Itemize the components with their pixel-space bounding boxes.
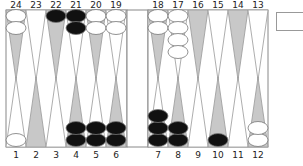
point-number-17: 17 xyxy=(168,0,188,10)
checker-black[interactable] xyxy=(148,122,168,135)
checker-white[interactable] xyxy=(248,122,268,135)
checker-white[interactable] xyxy=(6,10,26,23)
point-number-14: 14 xyxy=(228,0,248,10)
point-number-1: 1 xyxy=(6,150,26,160)
checker-white[interactable] xyxy=(168,46,188,59)
checker-black[interactable] xyxy=(148,110,168,123)
checker-white[interactable] xyxy=(168,34,188,47)
point-number-13: 13 xyxy=(248,0,268,10)
bar[interactable] xyxy=(127,10,148,147)
checker-white[interactable] xyxy=(168,10,188,23)
checker-white[interactable] xyxy=(106,10,126,23)
checker-black[interactable] xyxy=(86,122,106,135)
checker-white[interactable] xyxy=(86,22,106,35)
checker-black[interactable] xyxy=(66,134,86,147)
checker-black[interactable] xyxy=(66,10,86,23)
checker-black[interactable] xyxy=(46,10,66,23)
checker-black[interactable] xyxy=(66,122,86,135)
checker-black[interactable] xyxy=(66,22,86,35)
point-number-12: 12 xyxy=(248,150,268,160)
point-number-24: 24 xyxy=(6,0,26,10)
checker-white[interactable] xyxy=(6,134,26,147)
point-number-4: 4 xyxy=(66,150,86,160)
checker-white[interactable] xyxy=(148,10,168,23)
backgammon-board xyxy=(0,0,303,166)
point-number-2: 2 xyxy=(26,150,46,160)
checker-white[interactable] xyxy=(168,22,188,35)
point-number-6: 6 xyxy=(106,150,126,160)
point-number-11: 11 xyxy=(228,150,248,160)
point-number-16: 16 xyxy=(188,0,208,10)
checker-black[interactable] xyxy=(86,134,106,147)
point-number-5: 5 xyxy=(86,150,106,160)
point-number-18: 18 xyxy=(148,0,168,10)
point-number-8: 8 xyxy=(168,150,188,160)
point-number-10: 10 xyxy=(208,150,228,160)
checker-black[interactable] xyxy=(106,134,126,147)
point-number-7: 7 xyxy=(148,150,168,160)
point-number-22: 22 xyxy=(46,0,66,10)
point-number-21: 21 xyxy=(66,0,86,10)
checker-white[interactable] xyxy=(248,134,268,147)
point-number-20: 20 xyxy=(86,0,106,10)
checker-black[interactable] xyxy=(168,134,188,147)
checker-white[interactable] xyxy=(106,22,126,35)
point-number-19: 19 xyxy=(106,0,126,10)
side-box[interactable] xyxy=(276,12,303,31)
board-frame xyxy=(6,10,268,147)
checker-black[interactable] xyxy=(148,134,168,147)
checker-black[interactable] xyxy=(208,134,228,147)
checker-white[interactable] xyxy=(148,22,168,35)
point-number-3: 3 xyxy=(46,150,66,160)
point-number-9: 9 xyxy=(188,150,208,160)
checker-white[interactable] xyxy=(86,10,106,23)
checker-white[interactable] xyxy=(6,22,26,35)
point-number-23: 23 xyxy=(26,0,46,10)
point-number-15: 15 xyxy=(208,0,228,10)
checker-black[interactable] xyxy=(106,122,126,135)
checker-black[interactable] xyxy=(168,122,188,135)
